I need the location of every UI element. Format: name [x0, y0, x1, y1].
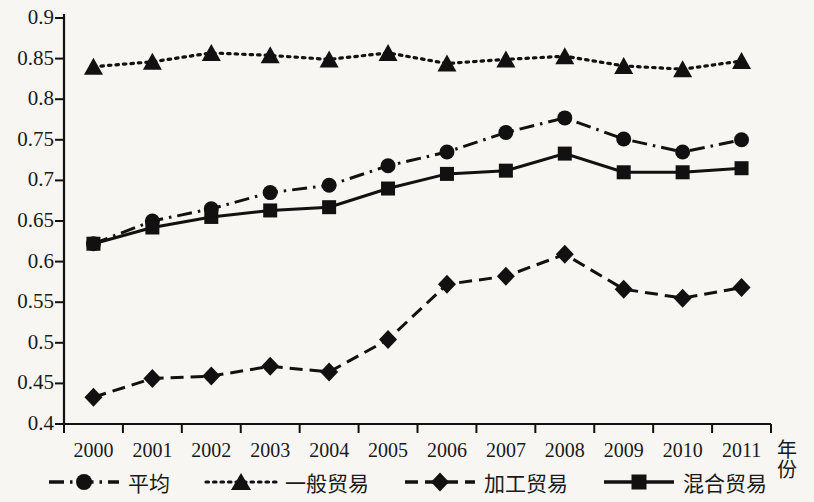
- y-axis-tick-label: 0.85: [0, 48, 54, 69]
- series-4: [86, 147, 748, 251]
- y-axis-tick-label: 0.8: [0, 88, 54, 109]
- y-axis-tick-label: 0.65: [0, 210, 54, 231]
- data-point-square: [145, 220, 159, 234]
- legend-item-3: 加工贸易: [403, 467, 568, 497]
- legend-item-4: 混合贸易: [602, 467, 767, 497]
- line-chart: 0.90.850.80.750.70.650.60.550.50.450.4 2…: [0, 0, 814, 502]
- data-point-square: [676, 165, 690, 179]
- data-point-square: [617, 165, 631, 179]
- chart-legend: 平均一般贸易加工贸易混合贸易: [0, 462, 814, 502]
- data-point-diamond: [143, 369, 161, 388]
- y-axis-tick-label: 0.9: [0, 7, 54, 28]
- data-point-circle: [616, 131, 631, 146]
- y-axis-tick-label: 0.4: [0, 413, 54, 434]
- diamond-marker: [403, 470, 477, 494]
- data-point-square: [499, 164, 513, 178]
- data-point-diamond: [261, 357, 279, 376]
- data-point-circle: [322, 178, 337, 193]
- data-point-square: [735, 161, 749, 175]
- square-marker: [602, 470, 676, 494]
- plot-area: [0, 0, 814, 460]
- data-point-diamond: [497, 267, 515, 286]
- legend-triangle: [231, 473, 251, 490]
- data-point-square: [204, 210, 218, 224]
- legend-label: 一般贸易: [285, 467, 369, 497]
- series-line-diamond: [94, 254, 742, 397]
- data-point-diamond: [556, 245, 574, 264]
- legend-label: 平均: [128, 467, 170, 497]
- y-axis-tick-label: 0.7: [0, 169, 54, 190]
- data-point-square: [440, 167, 454, 181]
- data-point-circle: [439, 144, 454, 159]
- series-line-square: [94, 154, 742, 244]
- data-point-diamond: [674, 289, 692, 308]
- legend-diamond: [431, 473, 449, 492]
- series-line-triangle: [94, 53, 742, 69]
- y-axis-tick-label: 0.75: [0, 129, 54, 150]
- data-point-triangle: [379, 44, 398, 61]
- chart-canvas: [0, 0, 814, 460]
- data-point-diamond: [379, 330, 397, 349]
- data-point-square: [558, 147, 572, 161]
- data-point-square: [381, 182, 395, 196]
- circle-marker: [47, 470, 121, 494]
- legend-label: 加工贸易: [484, 467, 568, 497]
- data-point-square: [322, 200, 336, 214]
- legend-circle: [76, 474, 92, 490]
- y-axis-tick-label: 0.45: [0, 372, 54, 393]
- legend-item-1: 平均: [47, 467, 170, 497]
- legend-label: 混合贸易: [683, 467, 767, 497]
- data-point-square: [263, 203, 277, 217]
- data-point-circle: [675, 144, 690, 159]
- y-axis-tick-label: 0.6: [0, 251, 54, 272]
- triangle-marker: [204, 470, 278, 494]
- series-2: [84, 44, 751, 77]
- y-axis-tick-label: 0.55: [0, 291, 54, 312]
- x-axis-tick-label: 2011: [707, 440, 777, 460]
- data-point-diamond: [733, 278, 751, 297]
- data-point-diamond: [320, 363, 338, 382]
- data-point-circle: [381, 158, 396, 173]
- data-point-diamond: [84, 388, 102, 407]
- data-point-diamond: [438, 275, 456, 294]
- data-point-square: [86, 237, 100, 251]
- legend-square: [632, 475, 647, 490]
- data-point-circle: [557, 110, 572, 125]
- data-point-circle: [498, 125, 513, 140]
- data-point-circle: [734, 132, 749, 147]
- legend-item-2: 一般贸易: [204, 467, 369, 497]
- y-axis-tick-label: 0.5: [0, 332, 54, 353]
- data-point-diamond: [615, 280, 633, 299]
- series-3: [84, 245, 750, 407]
- data-point-circle: [263, 185, 278, 200]
- data-point-diamond: [202, 367, 220, 386]
